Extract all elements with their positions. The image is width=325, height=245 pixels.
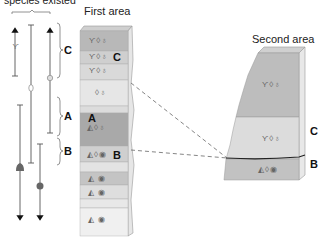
second-layer-2-fossils: ϒ◊♁	[262, 134, 281, 143]
range-bar-4	[17, 105, 23, 218]
first-layer-6-fossils: ◭◊♁	[87, 123, 106, 132]
gastropod-icon	[16, 163, 24, 171]
brace-a	[57, 97, 63, 136]
second-layer-3-fossils: ◭◊◉	[258, 165, 278, 174]
coiled-shell-icon	[37, 183, 44, 190]
first-layer-1-fossils: ϒ◊♁	[89, 36, 108, 45]
range-bar-3	[47, 30, 53, 133]
range-bar-1	[12, 30, 18, 76]
second-area-block	[224, 47, 305, 180]
first-layer-12-fossils: ◭ ◉	[88, 215, 106, 224]
first-layer-9-fossils: ◭ ◉	[88, 174, 106, 183]
second-label-b: B	[310, 158, 318, 170]
bracket-label-c: C	[64, 44, 72, 56]
range-bar-5	[37, 144, 43, 218]
first-layer-4-fossils: ◊♁	[95, 88, 107, 97]
bracket-label-b: B	[64, 145, 72, 157]
first-layer-10-fossils: ◭ ◉	[88, 188, 106, 197]
first-layer-7-fossils: ◭◊◉	[87, 150, 107, 159]
trilobite-icon: ϒ	[13, 42, 20, 51]
bracket-label-a: A	[64, 110, 72, 122]
range-bar-2	[28, 25, 34, 163]
second-label-c: C	[310, 125, 318, 137]
brace-c	[57, 23, 63, 78]
first-layer-2-fossils: ϒ◊♁	[89, 52, 108, 61]
correlation-lines	[131, 83, 227, 158]
diagram-canvas: ϒ	[0, 0, 325, 245]
first-layer-3-fossils: ϒ◊♁	[89, 66, 108, 75]
species-brace	[12, 10, 50, 14]
oval-shell-icon	[29, 85, 33, 92]
first-label-c: C	[113, 51, 121, 63]
first-label-b: B	[113, 149, 121, 161]
brace-b	[57, 138, 63, 165]
ammonite-icon	[47, 75, 52, 80]
second-layer-1-fossils: ϒ◊♁	[262, 80, 281, 89]
